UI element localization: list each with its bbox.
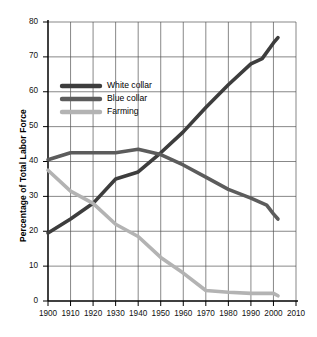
legend-swatches [62, 86, 100, 112]
data-series-layer [48, 38, 278, 296]
series-line-white-collar [48, 38, 278, 233]
line-chart: Percentage of Total Labor Force 0 10 20 … [0, 0, 317, 337]
plot-area [0, 0, 317, 337]
series-line-farming [48, 170, 278, 296]
